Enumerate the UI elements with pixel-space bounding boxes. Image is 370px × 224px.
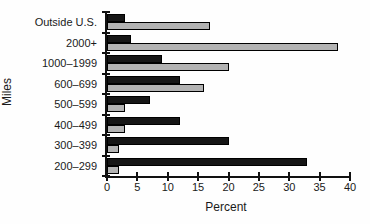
- category-label: 200–299: [0, 156, 97, 177]
- x-axis-tick-label: 20: [222, 181, 234, 193]
- category-label: 500–599: [0, 94, 97, 115]
- bar-black: [107, 117, 180, 125]
- category-label: 1000–1999: [0, 53, 97, 74]
- bar-black: [107, 158, 307, 166]
- x-axis-tick-label: 25: [253, 181, 265, 193]
- x-axis-tick-label: 35: [314, 181, 326, 193]
- y-axis-tick: [102, 11, 110, 13]
- category-label: 600–699: [0, 74, 97, 95]
- category-label: 300–399: [0, 135, 97, 156]
- x-axis-tick-label: 40: [344, 181, 356, 193]
- x-axis-title: Percent: [126, 200, 326, 214]
- x-axis-tick: [258, 172, 260, 181]
- y-axis-tick: [102, 134, 110, 136]
- bar-gray: [107, 43, 338, 51]
- x-axis-tick: [197, 172, 199, 181]
- x-axis-tick: [319, 172, 321, 181]
- y-axis-tick: [102, 93, 110, 95]
- category-label: 400–499: [0, 115, 97, 136]
- category-label: 2000+: [0, 33, 97, 54]
- plot-area: [105, 12, 350, 178]
- x-axis-tick-label: 15: [192, 181, 204, 193]
- x-axis-tick-label: 0: [104, 181, 110, 193]
- x-axis-tick: [228, 172, 230, 181]
- x-axis-tick-label: 10: [162, 181, 174, 193]
- bar-black: [107, 55, 162, 63]
- y-axis-tick: [102, 155, 110, 157]
- bar-black: [107, 76, 180, 84]
- bar-gray: [107, 125, 125, 133]
- x-axis-tick: [167, 172, 169, 181]
- bar-gray: [107, 63, 229, 71]
- y-axis-tick: [102, 73, 110, 75]
- bar-gray: [107, 145, 119, 153]
- bar-black: [107, 14, 125, 22]
- bar-gray: [107, 22, 210, 30]
- grouped-bar-chart: Miles Outside U.S.2000+1000–1999600–6995…: [0, 0, 370, 224]
- category-label: Outside U.S.: [0, 12, 97, 33]
- bar-black: [107, 96, 150, 104]
- x-axis-tick-label: 30: [283, 181, 295, 193]
- category-axis: Outside U.S.2000+1000–1999600–699500–599…: [0, 12, 101, 176]
- x-axis-tick: [136, 172, 138, 181]
- y-axis-tick: [102, 32, 110, 34]
- bar-gray: [107, 104, 125, 112]
- bar-gray: [107, 166, 119, 174]
- x-axis-tick: [288, 172, 290, 181]
- bar-black: [107, 35, 131, 43]
- bar-black: [107, 137, 229, 145]
- x-axis-tick-label: 5: [134, 181, 140, 193]
- y-axis-tick: [102, 52, 110, 54]
- x-axis-tick: [349, 172, 351, 181]
- y-axis-tick: [102, 114, 110, 116]
- x-axis-tick: [106, 172, 108, 181]
- bar-gray: [107, 84, 204, 92]
